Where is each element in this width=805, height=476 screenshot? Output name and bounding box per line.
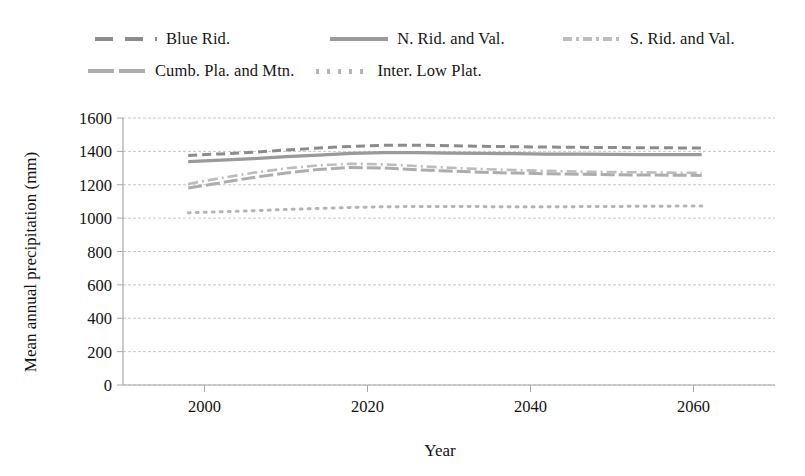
y-tick-label: 0 bbox=[104, 376, 112, 395]
series-line-1 bbox=[188, 153, 701, 162]
y-tick-group: 02004006008001000120014001600 bbox=[79, 109, 123, 395]
x-tick-label: 2040 bbox=[514, 397, 547, 416]
x-axis-title: Year bbox=[424, 441, 456, 460]
y-tick-label: 200 bbox=[87, 343, 112, 362]
chart-figure: Blue Rid. N. Rid. and Val. S. Rid. and V… bbox=[0, 0, 805, 476]
x-tick-label: 2060 bbox=[677, 397, 710, 416]
chart-plot-area: 02004006008001000120014001600 2000202020… bbox=[0, 0, 805, 476]
x-tick-label: 2000 bbox=[188, 397, 221, 416]
series-line-4 bbox=[188, 206, 701, 213]
gridlines-group bbox=[123, 118, 775, 385]
y-tick-label: 1000 bbox=[79, 209, 112, 228]
y-tick-label: 1200 bbox=[79, 176, 112, 195]
y-axis-title: Mean annual precipitation (mm) bbox=[21, 152, 40, 372]
y-tick-label: 800 bbox=[87, 243, 112, 262]
y-tick-label: 600 bbox=[87, 276, 112, 295]
series-group bbox=[188, 145, 701, 213]
chart-canvas: 02004006008001000120014001600 2000202020… bbox=[0, 0, 805, 476]
x-tick-group: 2000202020402060 bbox=[188, 385, 710, 416]
y-tick-label: 400 bbox=[87, 309, 112, 328]
y-tick-label: 1400 bbox=[79, 142, 112, 161]
x-tick-label: 2020 bbox=[351, 397, 384, 416]
y-tick-label: 1600 bbox=[79, 109, 112, 128]
